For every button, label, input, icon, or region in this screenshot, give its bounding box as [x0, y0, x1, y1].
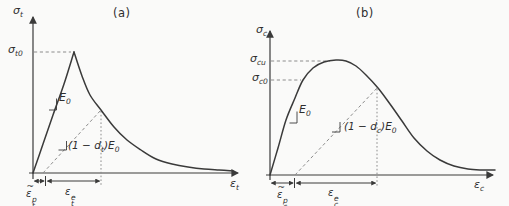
stress-strain-figure: (a) σt σt0 E0 (1 − dt)E0 εt ~εpt εet (b)…: [0, 0, 509, 206]
tension-rise-curve: [33, 52, 74, 173]
damaged-angle-marker-b: [332, 122, 340, 132]
damaged-modulus-label-a: (1 − dt)E0: [68, 139, 119, 151]
damaged-angle-marker-a: [59, 141, 67, 150]
plastic-strain-label-b: ~εpc: [277, 189, 288, 206]
sigma-t-axis-label: σt: [13, 5, 23, 17]
elastic-strain-label-a: εet: [65, 186, 76, 206]
sigma-c0-label: σc0: [252, 72, 268, 84]
panel-b-curve: [270, 60, 495, 175]
e0-label-a: E0: [59, 92, 71, 104]
figure-canvas: [0, 0, 509, 206]
damaged-modulus-label-b: (1 − dc)E0: [344, 120, 397, 132]
panel-a-slope-markers: [49, 99, 67, 151]
e0-angle-marker-b: [290, 112, 298, 124]
panel-b-strain-measures: [272, 178, 376, 188]
sigma-cu-label: σcu: [250, 53, 266, 65]
epsilon-t-axis-label: εt: [230, 178, 239, 190]
panel-a-strain-measures: [35, 176, 100, 186]
plastic-strain-label-a: ~εpt: [26, 188, 37, 206]
elastic-strain-label-b: εec: [328, 187, 339, 206]
tension-softening-curve: [74, 52, 233, 171]
panel-a-title: (a): [113, 6, 131, 20]
panel-a-curve: [33, 52, 233, 173]
panel-b-slope-markers: [290, 112, 341, 133]
sigma-c-axis-label: σc: [256, 24, 267, 36]
compression-curve: [270, 60, 495, 175]
sigma-t0-label: σt0: [8, 44, 23, 56]
e0-label-b: E0: [299, 104, 311, 116]
panel-b-title: (b): [356, 6, 374, 20]
epsilon-c-axis-label: εc: [474, 179, 484, 191]
